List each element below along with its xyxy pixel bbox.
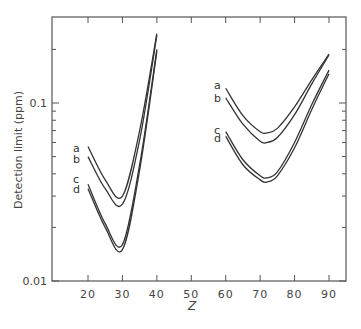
y-tick-label: 0.01 xyxy=(23,275,48,288)
curve-label-b: b xyxy=(214,92,221,105)
x-tick-label: 20 xyxy=(80,288,96,301)
curve-d-low-Z xyxy=(88,51,157,252)
y-axis-ticks: 0.010.1 xyxy=(23,49,347,288)
y-tick-label: 0.1 xyxy=(30,97,48,110)
x-tick-label: 90 xyxy=(321,288,337,301)
plot-frame xyxy=(52,17,346,281)
x-tick-label: 60 xyxy=(218,288,234,301)
figure-caption-fragment xyxy=(0,318,361,329)
x-tick-label: 80 xyxy=(287,288,303,301)
curve-label-a: a xyxy=(214,79,221,92)
curve-label-b: b xyxy=(73,153,80,166)
curve-b-high-Z xyxy=(226,55,329,143)
data-curves xyxy=(88,34,329,252)
curve-label-d: d xyxy=(73,183,80,196)
x-axis-ticks: 2030405060708090 xyxy=(80,17,337,301)
curve-label-d: d xyxy=(214,132,221,145)
x-tick-label: 70 xyxy=(252,288,268,301)
curve-a-low-Z xyxy=(88,34,157,199)
detection-limit-chart: 0.010.1 2030405060708090 abcdabcd Detect… xyxy=(0,0,361,329)
y-axis-label: Detection limit (ppm) xyxy=(12,91,25,209)
curve-c-low-Z xyxy=(88,49,157,247)
x-axis-label: Z xyxy=(187,299,197,313)
x-tick-label: 30 xyxy=(114,288,130,301)
x-tick-label: 40 xyxy=(149,288,165,301)
